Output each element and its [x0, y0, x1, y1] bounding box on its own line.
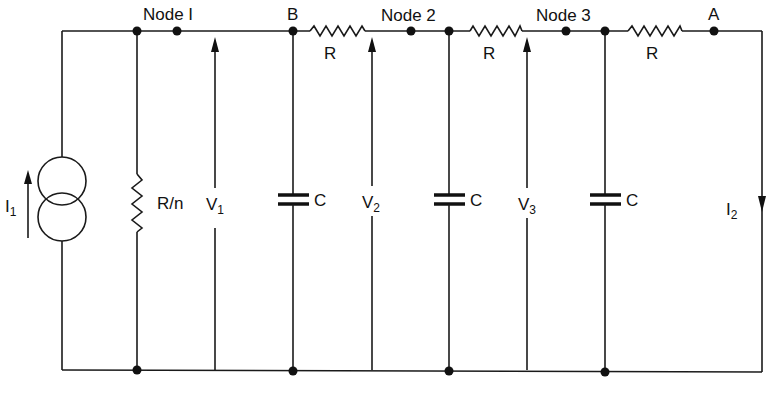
label-r2: R: [483, 44, 495, 63]
label-i2: I2: [726, 200, 738, 222]
label-i1: I1: [5, 197, 17, 219]
label-v3: V3: [518, 195, 536, 217]
current-source: [38, 31, 86, 370]
label-node3: Node 3: [536, 6, 591, 25]
capacitor-3: [590, 31, 621, 370]
output-current-wire: [758, 31, 766, 372]
series-resistor-2: [470, 26, 522, 36]
shunt-resistor: [132, 31, 142, 370]
circuit-diagram: I1 R/n V1 C R V2 C: [0, 0, 766, 396]
label-node-a: A: [708, 5, 720, 24]
label-node-b: B: [287, 5, 298, 24]
capacitor-2: [434, 31, 465, 370]
series-resistor-1: [310, 26, 365, 36]
label-r-over-n: R/n: [157, 194, 183, 213]
label-c2: C: [470, 191, 482, 210]
label-node2: Node 2: [381, 6, 436, 25]
label-c3: C: [626, 191, 638, 210]
current-arrow-i1: [24, 170, 32, 238]
label-node1: Node I: [143, 5, 193, 24]
capacitor-1: [278, 31, 309, 370]
label-v1: V1: [206, 195, 224, 217]
label-r1: R: [324, 44, 336, 63]
label-r3: R: [646, 44, 658, 63]
bottom-rail: [62, 370, 762, 372]
label-v2: V2: [362, 193, 380, 215]
label-c1: C: [314, 191, 326, 210]
series-resistor-3: [628, 26, 682, 36]
